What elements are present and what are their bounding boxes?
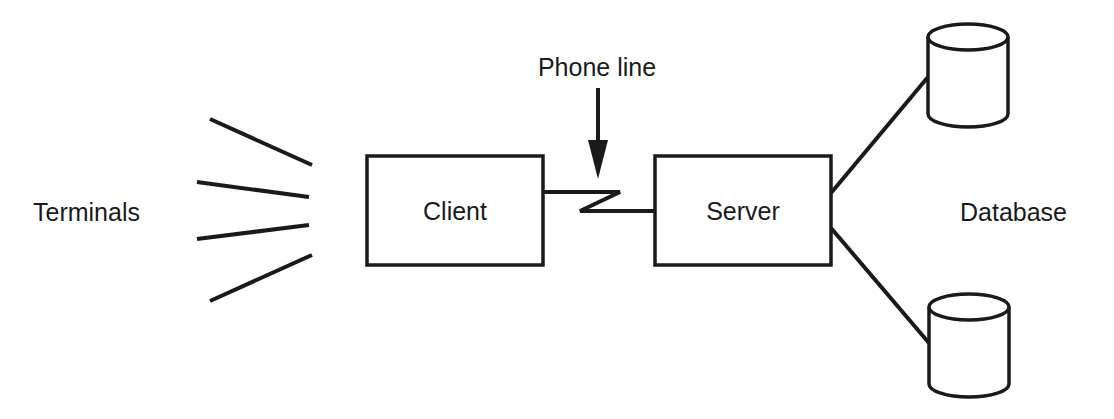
server-db-line-2 [831, 228, 929, 343]
client-node: Client [367, 156, 543, 265]
phone-line-zigzag [543, 192, 655, 211]
client-label: Client [423, 197, 487, 225]
terminals-label: Terminals [33, 198, 140, 226]
database-cylinder-icon-1 [928, 24, 1008, 127]
phone-line-arrow-icon [588, 88, 608, 179]
terminal-line-2 [197, 182, 309, 197]
database-cylinder-icon-2 [929, 294, 1009, 397]
server-node: Server [655, 156, 831, 265]
terminal-lines [197, 119, 312, 301]
client-server-diagram: Terminals Client Phone line Server Datab… [0, 0, 1114, 419]
server-label: Server [706, 197, 780, 225]
terminal-line-1 [210, 119, 312, 165]
server-db-line-1 [831, 77, 928, 193]
database-label: Database [960, 198, 1067, 226]
phone-line-label: Phone line [538, 53, 656, 81]
terminal-line-3 [197, 225, 309, 239]
terminal-line-4 [210, 255, 312, 301]
